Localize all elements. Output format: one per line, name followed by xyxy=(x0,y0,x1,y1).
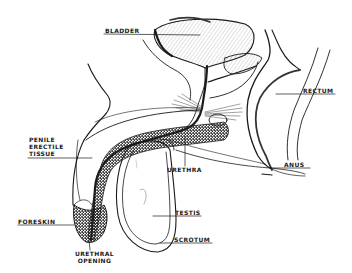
label-penile: PENILE xyxy=(29,136,64,143)
label-erectile: ERECTILE xyxy=(29,143,64,150)
label-rectum: RECTUM xyxy=(303,87,333,94)
label-anus: ANUS xyxy=(284,161,304,168)
label-opening: OPENING xyxy=(75,257,114,264)
rectum-shape xyxy=(247,30,330,170)
label-tissue: TISSUE xyxy=(29,150,64,157)
label-penile-erectile-tissue: PENILE ERECTILE TISSUE xyxy=(29,136,64,157)
penis-shape xyxy=(73,108,229,243)
label-urethral: URETHRAL xyxy=(75,250,114,257)
label-bladder: BLADDER xyxy=(105,27,140,34)
label-urethral-opening: URETHRAL OPENING xyxy=(75,250,114,264)
label-urethra: URETHRA xyxy=(167,166,202,173)
pelvic-floor-muscle xyxy=(172,94,242,120)
anatomy-diagram: BLADDER RECTUM PENILE ERECTILE TISSUE UR… xyxy=(0,0,352,273)
label-scrotum: SCROTUM xyxy=(174,236,210,243)
label-foreskin: FORESKIN xyxy=(18,218,55,225)
label-testis: TESTIS xyxy=(175,209,201,216)
